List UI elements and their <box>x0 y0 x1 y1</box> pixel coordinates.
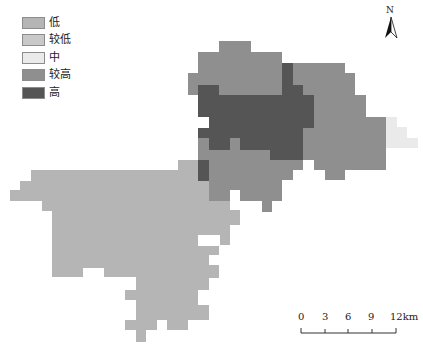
legend: 低 较低 中 较高 高 <box>22 14 71 102</box>
scale-tick-6: 6 <box>345 311 351 322</box>
scale-tick-12km: 12km <box>390 311 418 322</box>
legend-label: 高 <box>49 87 60 99</box>
legend-swatch-low <box>22 17 45 29</box>
legend-label: 较低 <box>49 34 71 46</box>
legend-item-higher: 较高 <box>22 67 71 85</box>
legend-swatch-medium <box>22 52 45 64</box>
scale-tick-3: 3 <box>322 311 328 322</box>
north-arrow: N <box>381 5 401 39</box>
region-far-east-medium <box>386 117 418 148</box>
legend-item-lower: 较低 <box>22 32 71 50</box>
region-central-highest-patch <box>198 160 209 181</box>
legend-swatch-high <box>22 87 45 99</box>
legend-label: 低 <box>49 17 60 29</box>
gap <box>198 235 220 246</box>
legend-label: 中 <box>49 52 60 64</box>
scale-line <box>296 323 416 335</box>
scale-tick-9: 9 <box>368 311 374 322</box>
legend-swatch-lower <box>22 34 45 46</box>
legend-item-high: 高 <box>22 84 71 102</box>
region-southwest-low <box>10 160 240 342</box>
scale-tick-0: 0 <box>298 311 304 322</box>
legend-item-low: 低 <box>22 14 71 32</box>
north-arrow-icon <box>384 17 398 39</box>
scale-bar: 0 3 6 9 12km <box>296 311 416 335</box>
legend-label: 较高 <box>49 69 71 81</box>
north-label: N <box>386 5 394 15</box>
legend-item-medium: 中 <box>22 49 71 67</box>
legend-swatch-higher <box>22 69 45 81</box>
